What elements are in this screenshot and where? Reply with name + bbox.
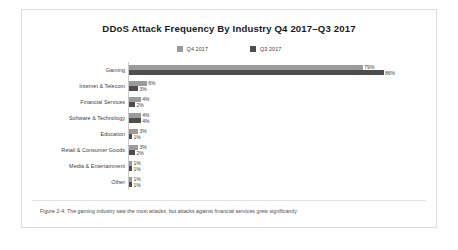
bar-group: 1%1% <box>129 161 428 171</box>
bar-value-label: 3% <box>138 86 147 92</box>
bar-wrapper: 2% <box>129 150 428 155</box>
bar-group: 6%3% <box>129 81 428 91</box>
figure-caption: Figure 2-4: The gaming industry saw the … <box>40 208 422 215</box>
bar-wrapper: 4% <box>129 118 428 123</box>
bar-value-label: 86% <box>384 70 396 76</box>
bar-value-label: 1% <box>132 166 141 172</box>
bar-segment[interactable] <box>129 118 141 123</box>
legend-item-q4-2017[interactable]: Q4 2017 <box>177 46 208 52</box>
bar-group: 79%86% <box>129 65 428 75</box>
legend-label: Q4 2017 <box>187 46 208 52</box>
bar-value-label: 1% <box>132 182 141 188</box>
bar-value-label: 79% <box>363 64 375 70</box>
category-label: Media & Entertainment <box>33 163 125 169</box>
bar-wrapper: 4% <box>129 97 428 102</box>
category-label: Other <box>33 179 125 185</box>
bar-wrapper: 86% <box>129 70 428 75</box>
chart-title: DDoS Attack Frequency By Industry Q4 201… <box>22 23 436 34</box>
legend-label: Q3 2017 <box>260 46 281 52</box>
bar-wrapper: 3% <box>129 86 428 91</box>
caption-divider <box>32 200 426 201</box>
figure-card: DDoS Attack Frequency By Industry Q4 201… <box>21 9 437 228</box>
bar-row: Gaming79%86% <box>32 62 428 78</box>
category-label: Retail & Consumer Goods <box>33 147 125 153</box>
bar-row: Software & Technology4%4% <box>32 110 428 126</box>
bar-group: 4%4% <box>129 113 428 123</box>
bar-wrapper: 1% <box>129 182 428 187</box>
bar-wrapper: 1% <box>129 177 428 182</box>
bar-wrapper: 2% <box>129 102 428 107</box>
bar-value-label: 1% <box>132 134 141 140</box>
bar-group: 3%2% <box>129 145 428 155</box>
category-label: Financial Services <box>33 99 125 105</box>
bar-value-label: 2% <box>135 102 144 108</box>
bar-wrapper: 1% <box>129 161 428 166</box>
category-label: Education <box>33 131 125 137</box>
bar-row: Internet & Telecom6%3% <box>32 78 428 94</box>
bar-wrapper: 6% <box>129 81 428 86</box>
bar-wrapper: 4% <box>129 113 428 118</box>
legend-item-q3-2017[interactable]: Q3 2017 <box>250 46 281 52</box>
bar-rows: Gaming79%86%Internet & Telecom6%3%Financ… <box>32 62 428 190</box>
bar-wrapper: 3% <box>129 129 428 134</box>
bar-row: Financial Services4%2% <box>32 94 428 110</box>
bar-segment[interactable] <box>129 65 363 70</box>
bar-value-label: 6% <box>147 80 156 86</box>
bar-segment[interactable] <box>129 70 384 75</box>
bar-segment[interactable] <box>129 113 141 118</box>
bar-wrapper: 3% <box>129 145 428 150</box>
bar-value-label: 2% <box>135 150 144 156</box>
bar-row: Other1%1% <box>32 174 428 190</box>
legend-swatch-icon <box>177 46 183 52</box>
bar-group: 3%1% <box>129 129 428 139</box>
bar-row: Media & Entertainment1%1% <box>32 158 428 174</box>
category-label: Gaming <box>33 67 125 73</box>
bar-group: 4%2% <box>129 97 428 107</box>
bar-value-label: 4% <box>141 118 150 124</box>
legend-swatch-icon <box>250 46 256 52</box>
plot-area: Gaming79%86%Internet & Telecom6%3%Financ… <box>32 62 428 190</box>
category-label: Internet & Telecom <box>33 83 125 89</box>
bar-segment[interactable] <box>129 86 138 91</box>
bar-wrapper: 1% <box>129 134 428 139</box>
bar-group: 1%1% <box>129 177 428 187</box>
bar-row: Education3%1% <box>32 126 428 142</box>
bar-wrapper: 1% <box>129 166 428 171</box>
chart-legend: Q4 2017 Q3 2017 <box>22 46 436 52</box>
bar-row: Retail & Consumer Goods3%2% <box>32 142 428 158</box>
category-label: Software & Technology <box>33 115 125 121</box>
